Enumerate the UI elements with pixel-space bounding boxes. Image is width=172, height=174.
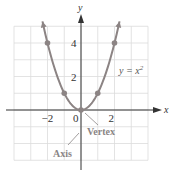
axis-annotation: Axis (53, 133, 79, 159)
parabola-chart: x y −20224 y = x2 Vertex Axis (0, 0, 172, 174)
y-tick-label: 2 (71, 71, 77, 83)
x-tick-label: 2 (109, 112, 115, 124)
x-axis-arrow-icon (153, 107, 162, 113)
data-point (45, 40, 51, 46)
vertex-label: Vertex (87, 126, 115, 137)
y-axis-arrow-icon (78, 14, 84, 23)
data-point (78, 107, 84, 113)
x-axis-label: x (163, 104, 169, 115)
x-tick-label: −2 (42, 112, 54, 124)
equation-label: y = x2 (118, 64, 144, 76)
y-tick-label: 4 (71, 37, 77, 49)
vertex-pointer (85, 113, 98, 125)
data-point (95, 90, 101, 96)
y-axis-label: y (77, 2, 83, 13)
data-point (112, 40, 118, 46)
x-tick-label: 0 (73, 112, 79, 124)
data-point (61, 90, 67, 96)
axis-label: Axis (53, 148, 72, 159)
